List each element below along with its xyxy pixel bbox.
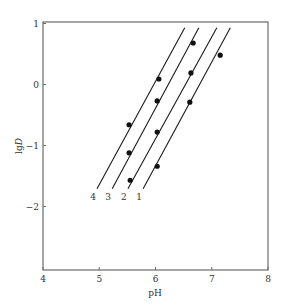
data-point-series-1 — [218, 53, 223, 58]
y-tick-label: −1 — [26, 141, 39, 151]
series-labels: 1234 — [90, 192, 142, 202]
series-label-1: 1 — [136, 192, 142, 202]
y-axis-label: lgD — [14, 138, 24, 154]
data-point-series-3 — [155, 98, 160, 103]
data-point-series-4 — [156, 76, 161, 81]
data-point-series-3 — [126, 150, 131, 155]
data-point-series-2 — [128, 178, 133, 183]
plot-area — [43, 22, 268, 270]
y-tick-label: 0 — [33, 80, 39, 90]
series-label-4: 4 — [90, 192, 96, 202]
data-point-series-2 — [188, 70, 193, 75]
data-point-series-3 — [191, 40, 196, 45]
y-axis-label-prefix: lg — [14, 145, 24, 154]
series-label-2: 2 — [121, 192, 127, 202]
data-point-series-1 — [155, 164, 160, 169]
y-tick-label: 1 — [33, 19, 39, 29]
series-label-3: 3 — [105, 192, 111, 202]
data-point-series-1 — [187, 100, 192, 105]
x-tick-label: 6 — [153, 274, 159, 284]
fit-lines — [97, 28, 230, 189]
x-axis-label: pH — [148, 288, 162, 298]
plot-frame — [43, 22, 268, 270]
x-tick-label: 8 — [265, 274, 271, 284]
data-points — [126, 40, 222, 182]
x-tick-label: 4 — [40, 274, 46, 284]
chart: 45678 10−1−2 1234 pH lgD — [0, 0, 286, 306]
x-tick-label: 7 — [209, 274, 215, 284]
y-axis-label-variable: D — [14, 138, 24, 146]
data-point-series-2 — [155, 129, 160, 134]
data-point-series-4 — [126, 122, 131, 127]
y-tick-label: −2 — [26, 202, 39, 212]
x-tick-label: 5 — [96, 274, 102, 284]
